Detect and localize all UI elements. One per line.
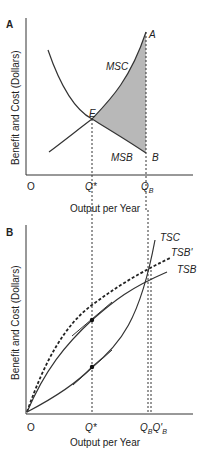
origin-label-b: O bbox=[27, 422, 35, 433]
tsc-point-q-star bbox=[90, 365, 94, 369]
panel-a: A A MSC E MSB B O Q* QB Output per Year … bbox=[6, 18, 193, 214]
q-star-label-a: Q* bbox=[85, 181, 98, 192]
diagram: A A MSC E MSB B O Q* QB Output per Year … bbox=[0, 0, 208, 467]
y-axis-label-b: Benefit and Cost (Dollars) bbox=[10, 266, 21, 381]
x-axis-label-a: Output per Year bbox=[70, 203, 141, 214]
point-a-label: A bbox=[148, 29, 156, 40]
point-e-label: E bbox=[89, 108, 96, 119]
tsc-curve bbox=[27, 240, 155, 412]
tsb-prime-label: TSB' bbox=[171, 247, 193, 258]
q-b-label-a: QB bbox=[141, 181, 154, 194]
x-axis-label-b: Output per Year bbox=[70, 437, 141, 448]
panel-b-label: B bbox=[6, 227, 13, 238]
origin-label-a: O bbox=[27, 181, 35, 192]
tsb-label: TSB bbox=[177, 264, 197, 275]
msc-label: MSC bbox=[106, 61, 129, 72]
point-b-label: B bbox=[152, 152, 159, 163]
y-axis-label-a: Benefit and Cost (Dollars) bbox=[10, 51, 21, 166]
tsb-curve bbox=[27, 272, 167, 412]
panel-b: B TSC TSB' TSB O Q* QBQ'B Output per Yea… bbox=[6, 210, 197, 448]
tsb-point-q-star bbox=[90, 318, 94, 322]
q-b-label-b: QBQ'B bbox=[140, 422, 167, 435]
q-star-label-b: Q* bbox=[85, 422, 98, 433]
msb-label: MSB bbox=[111, 152, 133, 163]
deadweight-loss-area bbox=[92, 32, 146, 153]
tsc-label: TSC bbox=[160, 232, 181, 243]
panel-a-label: A bbox=[6, 19, 13, 30]
